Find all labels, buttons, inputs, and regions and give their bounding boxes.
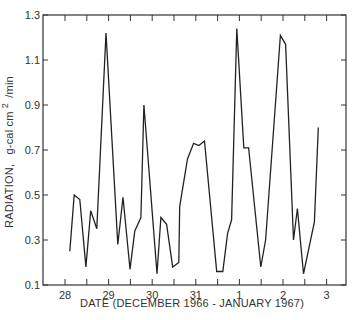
y-axis-title-tail: /min — [3, 76, 15, 98]
y-tick-label: 0.9 — [25, 99, 40, 111]
y-tick-label: 1.3 — [25, 9, 40, 21]
y-axis-title-sup: 2 — [0, 103, 10, 108]
y-axis-title-main: RADIATION, — [3, 164, 15, 228]
x-tick-label: 3 — [324, 289, 330, 301]
y-axis-title: RADIATION, g-cal cm 2 /min — [0, 76, 15, 228]
y-tick-label: 0.3 — [25, 234, 40, 246]
x-axis-title: DATE (DECEMBER 1966 - JANUARY 1967) — [80, 297, 304, 309]
y-axis-ticks: 0.10.30.50.70.91.11.3 — [25, 9, 346, 291]
y-tick-label: 1.1 — [25, 54, 40, 66]
radiation-series-line — [70, 29, 318, 274]
y-tick-label: 0.1 — [25, 279, 40, 291]
y-axis-title-units: g-cal cm — [3, 111, 15, 154]
x-tick-label: 28 — [59, 289, 71, 301]
svg-text:RADIATION, g-cal cm: RADIATION, g-cal cm 2 /min — [0, 76, 15, 228]
radiation-line-chart: 0.10.30.50.70.91.11.3 28293031123 DATE (… — [0, 0, 355, 320]
y-tick-label: 0.7 — [25, 144, 40, 156]
y-tick-label: 0.5 — [25, 189, 40, 201]
